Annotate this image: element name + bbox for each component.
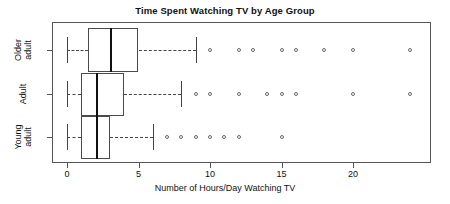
y-axis-tick: [47, 137, 52, 138]
plot-area: [52, 22, 431, 163]
outlier-point: [179, 135, 183, 139]
outlier-point: [280, 135, 284, 139]
x-axis-tick: [353, 163, 354, 168]
x-axis-tick: [210, 163, 211, 168]
median-line: [96, 116, 98, 159]
x-axis-tick-label: 20: [338, 169, 368, 179]
whisker-cap-upper: [153, 124, 154, 150]
x-axis-tick: [139, 163, 140, 168]
x-axis-tick: [282, 163, 283, 168]
x-axis-tick-label: 15: [267, 169, 297, 179]
x-axis-tick-label: 5: [124, 169, 154, 179]
y-axis-group-label: Young adult: [13, 114, 33, 160]
y-axis-group-label: Adult: [18, 71, 28, 117]
whisker-upper: [110, 137, 153, 138]
outlier-point: [165, 135, 169, 139]
y-axis-tick: [47, 50, 52, 51]
outlier-point: [222, 135, 226, 139]
outlier-point: [237, 135, 241, 139]
x-axis-tick-label: 10: [195, 169, 225, 179]
whisker-cap-lower: [67, 124, 68, 150]
box-group: [52, 22, 431, 163]
outlier-point: [208, 135, 212, 139]
x-axis-tick: [67, 163, 68, 168]
boxplot-figure: Time Spent Watching TV by Age Group 0510…: [0, 0, 450, 204]
whisker-lower: [67, 137, 81, 138]
outlier-point: [194, 135, 198, 139]
x-axis-tick-label: 0: [52, 169, 82, 179]
x-axis-title: Number of Hours/Day Watching TV: [0, 183, 450, 193]
y-axis-group-label: Older adult: [13, 27, 33, 73]
y-axis-tick: [47, 94, 52, 95]
chart-title: Time Spent Watching TV by Age Group: [0, 5, 450, 16]
